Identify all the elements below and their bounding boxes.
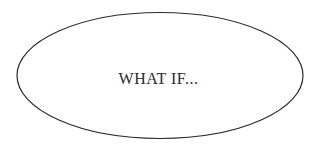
ellipse-label: WHAT IF... xyxy=(0,70,317,88)
